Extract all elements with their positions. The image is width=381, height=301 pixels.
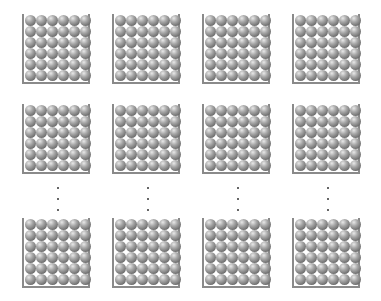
ball-icon — [47, 230, 58, 241]
ball-container — [112, 218, 180, 288]
ball-icon — [260, 241, 271, 252]
ball-icon — [58, 219, 69, 230]
ball-icon — [47, 219, 58, 230]
ball-icon — [350, 263, 361, 274]
ball-icon — [126, 149, 137, 160]
ball-icon — [58, 59, 69, 70]
ball-icon — [159, 59, 170, 70]
ball-icon — [159, 149, 170, 160]
ball-icon — [69, 127, 80, 138]
ball-icon — [350, 15, 361, 26]
ball-icon — [238, 15, 249, 26]
ball-icon — [328, 70, 339, 81]
ball-icon — [159, 160, 170, 171]
ball-icon — [148, 160, 159, 171]
ball-icon — [170, 263, 181, 274]
ball-icon — [295, 230, 306, 241]
ball-icon — [115, 263, 126, 274]
ball-icon — [238, 219, 249, 230]
ball-icon — [295, 116, 306, 127]
ball-icon — [339, 149, 350, 160]
ball-icon — [137, 263, 148, 274]
ball-icon — [317, 274, 328, 285]
ball-icon — [25, 241, 36, 252]
ball-icon — [350, 37, 361, 48]
ball-icon — [216, 252, 227, 263]
ball-icon — [306, 274, 317, 285]
ball-icon — [238, 138, 249, 149]
ball-icon — [260, 274, 271, 285]
ball-icon — [137, 26, 148, 37]
ball-icon — [80, 219, 91, 230]
ball-icon — [170, 149, 181, 160]
ball-icon — [227, 15, 238, 26]
ball-icon — [47, 70, 58, 81]
ball-icon — [69, 241, 80, 252]
ball-grid — [25, 15, 91, 81]
ball-icon — [115, 26, 126, 37]
ball-icon — [227, 138, 238, 149]
ball-icon — [148, 230, 159, 241]
ball-container — [22, 218, 90, 288]
ball-icon — [306, 105, 317, 116]
ball-icon — [126, 127, 137, 138]
ball-icon — [260, 105, 271, 116]
ball-icon — [47, 149, 58, 160]
ball-icon — [36, 59, 47, 70]
ball-icon — [295, 149, 306, 160]
ball-icon — [249, 263, 260, 274]
ball-grid — [115, 219, 181, 285]
ball-icon — [137, 15, 148, 26]
ball-icon — [260, 59, 271, 70]
ball-icon — [306, 37, 317, 48]
ball-icon — [350, 70, 361, 81]
ball-icon — [295, 263, 306, 274]
ball-icon — [137, 37, 148, 48]
ball-icon — [47, 252, 58, 263]
ball-icon — [306, 230, 317, 241]
ball-icon — [137, 219, 148, 230]
ball-icon — [170, 252, 181, 263]
ball-icon — [350, 127, 361, 138]
ball-icon — [295, 59, 306, 70]
ball-icon — [205, 37, 216, 48]
ball-icon — [126, 230, 137, 241]
ball-icon — [47, 15, 58, 26]
ball-icon — [148, 138, 159, 149]
ball-icon — [80, 230, 91, 241]
ball-icon — [58, 48, 69, 59]
ball-icon — [227, 219, 238, 230]
ball-icon — [339, 219, 350, 230]
ball-container — [22, 14, 90, 84]
ball-icon — [238, 70, 249, 81]
ball-icon — [350, 26, 361, 37]
ball-icon — [317, 116, 328, 127]
ball-icon — [69, 138, 80, 149]
ball-icon — [159, 105, 170, 116]
ball-icon — [170, 26, 181, 37]
ball-icon — [170, 59, 181, 70]
ball-icon — [227, 160, 238, 171]
ball-icon — [350, 274, 361, 285]
ball-icon — [317, 15, 328, 26]
ball-icon — [339, 127, 350, 138]
ball-icon — [80, 263, 91, 274]
ball-icon — [317, 149, 328, 160]
ball-icon — [36, 70, 47, 81]
ball-icon — [216, 26, 227, 37]
ball-icon — [260, 15, 271, 26]
ball-icon — [47, 116, 58, 127]
ball-icon — [80, 105, 91, 116]
ball-icon — [306, 70, 317, 81]
ball-icon — [205, 263, 216, 274]
ball-icon — [25, 48, 36, 59]
ball-icon — [137, 149, 148, 160]
ball-icon — [306, 59, 317, 70]
ball-icon — [216, 70, 227, 81]
ball-icon — [350, 116, 361, 127]
ball-icon — [115, 59, 126, 70]
ball-icon — [350, 230, 361, 241]
ball-icon — [25, 138, 36, 149]
ball-icon — [170, 230, 181, 241]
ball-icon — [115, 15, 126, 26]
